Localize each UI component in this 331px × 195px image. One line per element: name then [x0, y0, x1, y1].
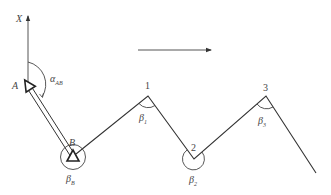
azimuth-arc: αAB: [28, 62, 63, 98]
azimuth-label: αAB: [50, 73, 63, 86]
point-1-label: 1: [145, 80, 150, 91]
angle-label-1: β1: [138, 112, 147, 125]
known-side-ab: [27, 86, 75, 157]
point-a-label: A: [11, 80, 19, 91]
point-3-label: 3: [263, 82, 268, 93]
traverse-lines: [76, 96, 316, 173]
axis-label-x: X: [15, 13, 23, 24]
angle-label-b: βB: [65, 173, 75, 186]
angle-arc-1: [139, 104, 155, 108]
north-axis: X: [15, 13, 28, 82]
point-b-marker: [67, 150, 79, 161]
point-a-marker: A: [11, 77, 35, 92]
point-3: 3 β3: [257, 82, 273, 128]
traverse-diagram: X αAB A B βB 1 β1 2 β2 3: [0, 0, 331, 195]
point-2: 2 β2: [182, 142, 204, 187]
point-b: B βB: [61, 137, 86, 186]
point-b-label: B: [69, 137, 75, 148]
angle-label-3: β3: [257, 115, 266, 128]
point-2-label: 2: [191, 142, 196, 153]
angle-arc-3: [257, 104, 273, 109]
angle-label-2: β2: [188, 174, 197, 187]
